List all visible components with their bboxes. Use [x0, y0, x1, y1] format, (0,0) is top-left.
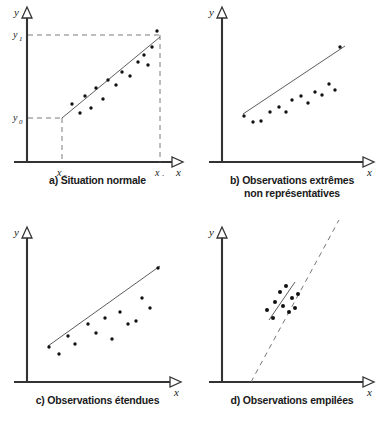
panel-b-caption-line1: b) Observations extrêmes	[230, 174, 354, 186]
panel-d-caption-line1: d) Observations empilées	[231, 394, 354, 406]
regression-line	[62, 37, 160, 118]
panel-a-caption-line1: a) Situation normale	[49, 174, 146, 186]
extrapolation-line	[251, 220, 339, 382]
regression-line	[48, 266, 160, 346]
panel-a-caption: a) Situation normale	[0, 174, 195, 187]
panel-d-plot: y x	[195, 220, 389, 396]
figure-grid: y x y 1 y 0 x 0 x 1	[0, 0, 389, 440]
panel-b: y x b) Observations extrêmes non représe…	[195, 0, 389, 220]
panel-b-plot: y x	[195, 0, 389, 176]
y-axis-arrow-icon	[22, 7, 32, 18]
svg-text:y: y	[12, 112, 18, 123]
panel-b-caption: b) Observations extrêmes non représentat…	[195, 174, 389, 200]
y-axis-label: y	[13, 6, 19, 18]
panel-c-caption: c) Observations étendues	[0, 394, 195, 407]
tick-label-y1: y 1	[12, 29, 23, 43]
panel-d-caption: d) Observations empilées	[195, 394, 389, 407]
svg-text:1: 1	[19, 35, 23, 43]
y-axis-label: y	[208, 6, 214, 18]
panel-a: y x y 1 y 0 x 0 x 1	[0, 0, 195, 220]
regression-line	[243, 46, 345, 114]
scatter-points	[265, 284, 300, 320]
panel-c-plot: y x	[0, 220, 195, 396]
scatter-points	[47, 266, 159, 355]
regression-line	[269, 282, 295, 320]
svg-text:y: y	[12, 29, 18, 40]
tick-label-y0: y 0	[12, 112, 23, 126]
scatter-points	[242, 45, 341, 123]
panel-c: y x c) Observations étendues	[0, 220, 195, 440]
panel-c-caption-line1: c) Observations étendues	[36, 394, 160, 406]
y-axis-label: y	[208, 226, 214, 238]
panel-b-caption-line2: non représentatives	[195, 187, 389, 200]
panel-a-plot: y x y 1 y 0 x 0 x 1	[0, 0, 195, 176]
y-axis-label: y	[13, 226, 19, 238]
y-axis-arrow-icon	[217, 7, 227, 18]
scatter-points	[70, 29, 158, 114]
y-axis-arrow-icon	[22, 227, 32, 238]
svg-text:0: 0	[19, 118, 23, 126]
y-axis-arrow-icon	[217, 227, 227, 238]
panel-d: y x d) Observations empilées	[195, 220, 389, 440]
